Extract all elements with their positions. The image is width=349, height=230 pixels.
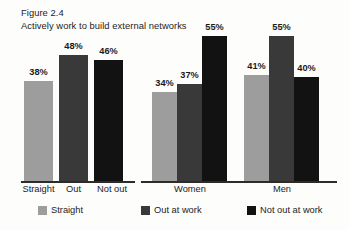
bar-not-out-men[interactable] xyxy=(294,77,319,181)
bar-not-out-women[interactable] xyxy=(202,36,227,181)
bar-out-overall[interactable] xyxy=(59,55,88,181)
bar-out-men[interactable] xyxy=(269,36,294,181)
legend-label-out-at-work: Out at work xyxy=(154,205,202,215)
bar-straight-women[interactable] xyxy=(152,92,177,181)
legend-item-out-at-work[interactable]: Out at work xyxy=(141,205,202,215)
legend-swatch-not-out-at-work xyxy=(247,206,256,215)
bar-label-not-out-men: 40% xyxy=(292,63,321,73)
bar-label-out-men: 55% xyxy=(267,22,296,32)
bar-label-out-women: 37% xyxy=(175,70,204,80)
bar-straight-men[interactable] xyxy=(244,75,269,181)
figure-chart: Figure 2.4 Actively work to build extern… xyxy=(0,0,349,230)
legend-item-not-out-at-work[interactable]: Not out at work xyxy=(247,205,323,215)
bar-not-out-overall[interactable] xyxy=(94,60,123,181)
bar-label-straight-men: 41% xyxy=(242,61,271,71)
legend-swatch-out-at-work xyxy=(141,206,150,215)
legend-item-straight[interactable]: Straight xyxy=(38,205,83,215)
bar-out-women[interactable] xyxy=(177,84,202,181)
legend-swatch-straight xyxy=(38,206,47,215)
bar-label-not-out-overall: 46% xyxy=(94,46,123,56)
axis-baseline-right xyxy=(141,181,337,183)
category-label-straight: Straight xyxy=(14,184,63,194)
category-label-not-out: Not out xyxy=(90,184,134,194)
chart-legend: Straight Out at work Not out at work xyxy=(0,205,349,221)
category-label-men: Men xyxy=(259,184,305,194)
category-label-women: Women xyxy=(162,184,218,194)
legend-label-straight: Straight xyxy=(51,205,83,215)
axis-baseline-left xyxy=(21,181,135,183)
bar-label-not-out-women: 55% xyxy=(200,22,229,32)
bar-straight-overall[interactable] xyxy=(24,81,53,181)
legend-label-not-out-at-work: Not out at work xyxy=(260,205,323,215)
category-label-out: Out xyxy=(58,184,89,194)
plot-area: 38% 48% 46% Straight Out Not out 34% 37%… xyxy=(0,0,349,230)
bar-label-straight-overall: 38% xyxy=(24,67,53,77)
bar-label-out-overall: 48% xyxy=(59,41,88,51)
